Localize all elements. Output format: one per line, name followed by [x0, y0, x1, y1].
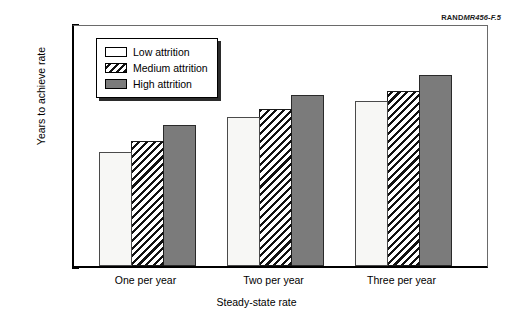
bar: [355, 101, 388, 266]
legend-label: Low attrition: [133, 46, 190, 58]
bar: [259, 109, 292, 266]
bar: [227, 117, 260, 266]
legend-item: Medium attrition: [105, 60, 210, 76]
figure-id-prefix: RAND: [441, 13, 463, 22]
legend-label: Medium attrition: [133, 62, 208, 74]
bar: [131, 141, 164, 266]
y-axis-label: Years to achieve rate: [35, 16, 47, 176]
figure-id-number: MR456-F.5: [463, 13, 501, 22]
bar: [163, 125, 196, 266]
x-axis-label: Steady-state rate: [0, 296, 513, 308]
legend-swatch-icon: [105, 47, 127, 57]
legend-swatch-icon: [105, 63, 127, 73]
legend: Low attritionMedium attritionHigh attrit…: [96, 38, 218, 98]
bar: [387, 91, 420, 266]
figure-id: RANDMR456-F.5: [441, 13, 501, 22]
legend-item: Low attrition: [105, 44, 210, 60]
x-category-label: Two per year: [214, 274, 334, 286]
x-category-label: One per year: [86, 274, 206, 286]
bar: [291, 95, 324, 266]
bar: [419, 75, 452, 266]
x-category-label: Three per year: [342, 274, 462, 286]
figure-root: RANDMR456-F.5 Years to achieve rate 0510…: [0, 0, 513, 328]
bar: [99, 152, 132, 266]
legend-label: High attrition: [133, 78, 192, 90]
legend-item: High attrition: [105, 76, 210, 92]
legend-swatch-icon: [105, 79, 127, 89]
